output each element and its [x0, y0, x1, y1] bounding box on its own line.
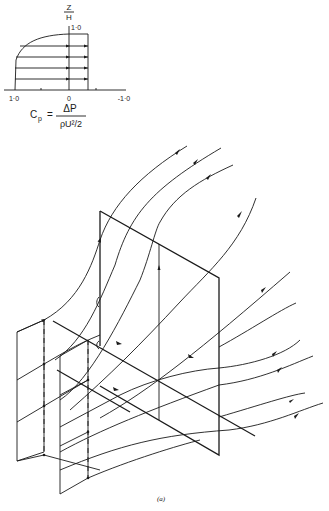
streamline-bottom: [60, 440, 200, 494]
ground-line-upper: [53, 321, 255, 436]
streamline: [60, 356, 313, 452]
arrowhead-icon: [158, 265, 161, 270]
formula-denominator: ρU²/2: [60, 119, 82, 129]
diagram-canvas: Z H 1·0 1·0 0 -1·0 C p: [0, 0, 329, 511]
marker-dot: [43, 454, 46, 457]
formula-equals: =: [47, 109, 53, 120]
streamline: [55, 148, 221, 360]
arrowhead-icon: [277, 367, 282, 373]
profile-arrows: [15, 45, 88, 81]
marker-dot: [87, 477, 90, 480]
vortex-curl-icon: [97, 341, 99, 349]
x-tick-label-0: 0: [67, 95, 71, 102]
pressure-profile-curve: [15, 34, 69, 90]
y-tick-label: 1·0: [71, 24, 81, 31]
main-plate-outline: [100, 211, 219, 455]
formula-lhs-subscript: p: [38, 115, 42, 123]
x-tick-label-neg1: -1·0: [118, 95, 131, 102]
formula-numerator: ΔP: [63, 103, 77, 114]
streamline: [17, 146, 187, 332]
streamline: [60, 432, 88, 446]
left-plane-back: [17, 320, 44, 461]
marker-dot: [43, 363, 46, 366]
streamline: [60, 403, 323, 470]
streamline: [17, 380, 88, 422]
cp-formula: C p = ΔP ρU²/2: [30, 103, 86, 129]
x-tick-label-1: 1·0: [9, 95, 19, 102]
arrowhead-icon: [113, 387, 119, 391]
marker-dot: [87, 379, 90, 382]
streamline: [60, 165, 233, 400]
formula-lhs: C: [30, 109, 37, 120]
marker-dot: [87, 431, 90, 434]
streamline: [100, 272, 290, 418]
streamline: [60, 380, 88, 395]
arrowhead-icon: [116, 341, 122, 345]
front-plane: [60, 340, 88, 494]
inset-profile-chart: Z H 1·0 1·0 0 -1·0 C p: [4, 3, 130, 129]
z-axis-label: Z: [67, 3, 72, 12]
arrowhead-icon: [261, 287, 266, 293]
arrowhead-icon: [206, 174, 211, 180]
arrowhead-icon: [237, 211, 242, 218]
streamline: [219, 303, 296, 347]
marker-dot: [43, 405, 46, 408]
main-flow-figure: (a): [17, 146, 323, 503]
arrowhead-icon: [294, 413, 299, 419]
arrowhead-icon: [289, 399, 294, 403]
arrowhead-icon: [175, 149, 180, 155]
h-axis-label: H: [66, 13, 72, 22]
streamline: [219, 393, 305, 417]
arrowhead-icon: [272, 351, 277, 357]
streamline: [60, 340, 300, 427]
figure-caption: (a): [157, 495, 166, 503]
